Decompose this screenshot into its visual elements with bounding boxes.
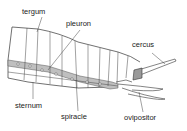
insect-abdomen-diagram [0, 0, 187, 131]
label-spiracle: spiracle [61, 113, 87, 121]
label-sternum: sternum [15, 102, 42, 110]
label-tergum: tergum [22, 8, 45, 16]
label-pleuron: pleuron [66, 20, 91, 28]
segment-lines [8, 28, 128, 88]
ovipositor [116, 80, 165, 99]
cercus [133, 59, 176, 80]
label-ovipositor: ovipositor [124, 114, 156, 122]
label-cercus: cercus [132, 41, 154, 49]
